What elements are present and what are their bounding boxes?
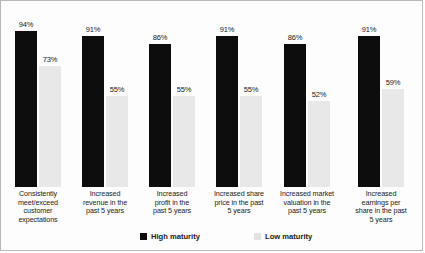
legend-item-low-maturity[interactable]: Low maturity	[254, 232, 312, 241]
bar-group: 94%73%	[15, 1, 61, 187]
category-label-line: expectations	[18, 215, 57, 224]
category-label-line: 5 years	[228, 206, 251, 215]
bar-low-maturity	[382, 89, 404, 187]
plot-area: 94%73%91%55%86%55%91%55%86%52%91%59%	[1, 1, 424, 187]
bar-group: 86%55%	[149, 1, 195, 187]
chart-container: 94%73%91%55%86%55%91%55%86%52%91%59% Con…	[0, 0, 423, 251]
bar-low-maturity	[308, 101, 330, 187]
bar-high-maturity	[149, 44, 171, 187]
bar-value-label: 55%	[100, 85, 134, 94]
chart-legend: High maturityLow maturity	[1, 232, 424, 248]
bar-high-maturity	[216, 36, 238, 187]
bar-low-maturity	[39, 66, 61, 187]
category-label: Increasedearnings pershare in the past5 …	[348, 190, 414, 224]
category-label: Consistentlymeet/exceedcustomerexpectati…	[5, 190, 71, 224]
bar-low-maturity	[240, 96, 262, 187]
category-label: Increasedrevenue in thepast 5 years	[72, 190, 138, 216]
bar-group: 91%55%	[82, 1, 128, 187]
bar-value-label: 86%	[143, 33, 177, 42]
category-label: Increased marketvaluation in thepast 5 y…	[274, 190, 340, 216]
category-label-line: past 5 years	[288, 206, 326, 215]
bar-high-maturity	[358, 36, 380, 187]
legend-item-high-maturity[interactable]: High maturity	[140, 232, 200, 241]
bar-value-label: 91%	[76, 25, 110, 34]
bar-value-label: 94%	[9, 20, 43, 29]
bar-group: 91%59%	[358, 1, 404, 187]
category-label: Increased shareprice in the past5 years	[206, 190, 272, 216]
legend-swatch-icon	[140, 233, 147, 240]
bar-value-label: 52%	[302, 90, 336, 99]
category-axis: Consistentlymeet/exceedcustomerexpectati…	[1, 190, 424, 230]
legend-swatch-icon	[254, 233, 261, 240]
bar-value-label: 55%	[234, 85, 268, 94]
bar-value-label: 91%	[352, 25, 386, 34]
legend-item-label: High maturity	[151, 232, 200, 241]
bar-group: 86%52%	[284, 1, 330, 187]
bar-value-label: 91%	[210, 25, 244, 34]
category-label-line: past 5 years	[86, 206, 124, 215]
bar-value-label: 59%	[376, 78, 410, 87]
bar-low-maturity	[173, 96, 195, 187]
bar-group: 91%55%	[216, 1, 262, 187]
bar-value-label: 73%	[33, 55, 67, 64]
bar-value-label: 55%	[167, 85, 201, 94]
bar-high-maturity	[82, 36, 104, 187]
category-label-line: past 5 years	[153, 206, 191, 215]
bar-value-label: 86%	[278, 33, 312, 42]
legend-item-label: Low maturity	[265, 232, 312, 241]
category-label-line: 5 years	[370, 215, 393, 224]
bar-low-maturity	[106, 96, 128, 187]
category-label: Increasedprofit in thepast 5 years	[139, 190, 205, 216]
bar-high-maturity	[284, 44, 306, 187]
